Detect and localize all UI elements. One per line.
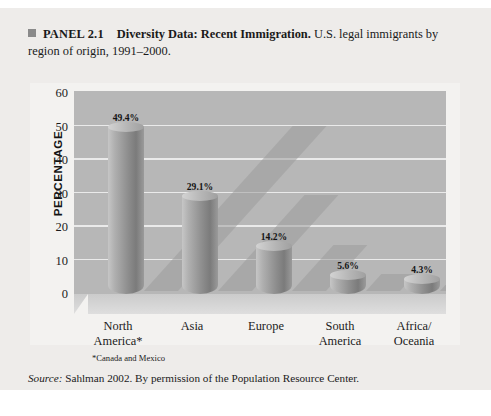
bar-value-label: 49.4% — [113, 112, 139, 123]
bar-group: 4.3% — [404, 91, 440, 294]
x-label-line: Africa/ — [376, 319, 452, 334]
chart-floor — [74, 294, 446, 314]
plot-area: 49.4% 29.1% 14.2% 5.6% — [74, 91, 446, 294]
panel-bullet-icon — [28, 29, 36, 37]
source-text: Sahlman 2002. By permission of the Popul… — [62, 372, 359, 384]
y-tick: 0 — [38, 288, 68, 300]
bar — [330, 275, 366, 294]
x-axis-label-africa-oceania: Africa/ Oceania — [376, 319, 452, 348]
x-axis-label-north-america: North America* — [80, 319, 156, 348]
x-label-line: South — [302, 319, 378, 334]
bar-group: 49.4% — [108, 91, 144, 294]
x-label-line: Europe — [228, 319, 304, 334]
bar — [404, 279, 440, 294]
x-axis-label-asia: Asia — [154, 319, 230, 334]
bar-group: 29.1% — [182, 91, 218, 294]
bar-cap — [330, 270, 366, 280]
panel-container: PANEL 2.1Diversity Data: Recent Immigrat… — [0, 8, 491, 390]
bar-group: 5.6% — [330, 91, 366, 294]
y-axis-label: PERCENTAGE — [51, 121, 64, 227]
y-tick: 60 — [38, 87, 68, 99]
bar-cap — [404, 274, 440, 284]
x-label-line: America — [302, 334, 378, 349]
panel-subtitle: Diversity Data: Recent Immigration. — [117, 27, 311, 41]
bar-cap — [108, 122, 144, 132]
x-label-line: Asia — [154, 319, 230, 334]
source-line: Source: Sahlman 2002. By permission of t… — [28, 372, 359, 384]
x-label-line: America* — [80, 334, 156, 349]
bar-value-label: 5.6% — [337, 260, 359, 271]
bar-shadow — [440, 278, 446, 291]
panel-number: PANEL 2.1 — [43, 27, 104, 41]
x-axis-label-south-america: South America — [302, 319, 378, 348]
y-tick: 10 — [38, 255, 68, 267]
source-label: Source: — [28, 372, 62, 384]
bar — [108, 127, 144, 294]
x-axis-label-europe: Europe — [228, 319, 304, 334]
bar-cap — [256, 241, 292, 251]
bar-value-label: 29.1% — [187, 181, 213, 192]
bar — [182, 196, 218, 294]
bar-value-label: 4.3% — [411, 264, 433, 275]
panel-caption: PANEL 2.1Diversity Data: Recent Immigrat… — [28, 26, 468, 59]
bar-cap — [182, 191, 218, 201]
bar-value-label: 14.2% — [261, 231, 287, 242]
footnote: *Canada and Mexico — [92, 353, 165, 363]
bar — [256, 246, 292, 294]
bar-group: 14.2% — [256, 91, 292, 294]
chart-figure: 60 50 40 30 20 10 0 PERCENTAGE 49.4% — [30, 83, 460, 345]
x-label-line: Oceania — [376, 334, 452, 349]
x-label-line: North — [80, 319, 156, 334]
